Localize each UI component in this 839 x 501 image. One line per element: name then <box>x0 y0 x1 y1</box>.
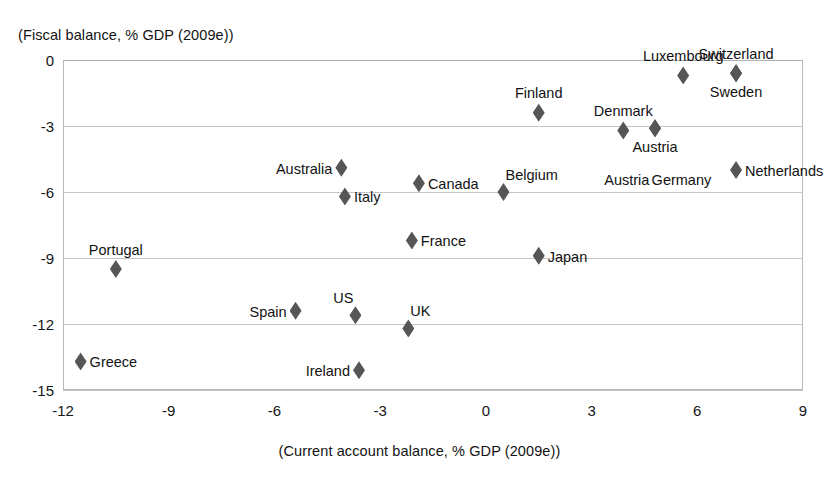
y-tick-label: -9 <box>41 250 54 267</box>
point-label: Netherlands <box>745 164 823 179</box>
point-label: US <box>333 291 353 306</box>
gridline <box>63 126 803 127</box>
point-label: Belgium <box>505 168 557 183</box>
x-axis-title: (Current account balance, % GDP (2009e)) <box>0 443 839 459</box>
point-label: Denmark <box>594 104 653 119</box>
gridline <box>63 258 803 259</box>
scatter-chart: (Fiscal balance, % GDP (2009e)) 0-3-6-9-… <box>0 0 839 501</box>
gridline <box>63 390 803 391</box>
point-label: Portugal <box>89 243 143 258</box>
point-label: Switzerland <box>699 47 774 62</box>
x-tick-label: -12 <box>52 402 74 419</box>
point-label: Italy <box>354 190 381 205</box>
gridline <box>63 192 803 193</box>
point-label: Austria <box>632 140 677 155</box>
y-axis-title: (Fiscal balance, % GDP (2009e)) <box>18 27 234 43</box>
x-tick-label: 9 <box>799 402 807 419</box>
point-label: Germany <box>652 173 712 188</box>
point-label: Australia <box>276 162 332 177</box>
y-tick-label: -12 <box>32 316 54 333</box>
y-tick-label: 0 <box>46 52 54 69</box>
y-tick-label: -15 <box>32 382 54 399</box>
x-tick-label: -9 <box>162 402 175 419</box>
x-tick-label: 3 <box>587 402 595 419</box>
point-label: Spain <box>249 305 286 320</box>
x-tick-label: -3 <box>373 402 386 419</box>
point-label: Ireland <box>306 364 350 379</box>
x-tick-label: 6 <box>693 402 701 419</box>
point-label: Greece <box>90 355 138 370</box>
x-tick-label: -6 <box>268 402 281 419</box>
point-label: Sweden <box>710 85 762 100</box>
y-tick-label: -6 <box>41 184 54 201</box>
point-label: Finland <box>515 86 563 101</box>
point-label: France <box>421 234 466 249</box>
point-label: Canada <box>428 177 479 192</box>
gridline <box>63 324 803 325</box>
y-tick-label: -3 <box>41 118 54 135</box>
plot-frame <box>63 60 803 390</box>
point-label: Japan <box>548 250 588 265</box>
point-label: UK <box>410 304 430 319</box>
point-label: Austria <box>604 173 649 188</box>
plot-area: 0-3-6-9-12-15 -12-9-6-30369 GreecePortug… <box>63 60 803 390</box>
x-tick-label: 0 <box>482 402 490 419</box>
